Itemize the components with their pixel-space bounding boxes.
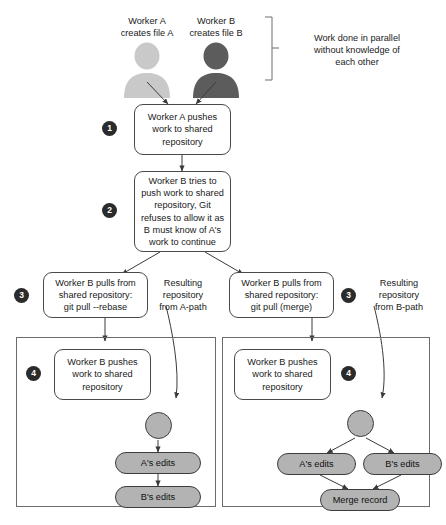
box-step4-right[interactable]: Worker B pushes work to shared repositor…: [234, 349, 331, 400]
resulting-left-line2: repository: [150, 289, 216, 301]
resulting-right-label: Resulting repository from B-path: [364, 277, 434, 314]
edge-step2-to-step3-right: [205, 252, 243, 274]
box-step1-line3: repository: [148, 136, 217, 148]
box-step3-left-line1: Worker B pulls from: [55, 277, 136, 289]
box-step4-left-line1: Worker B pushes: [67, 356, 137, 368]
box-step2-line5: B must know of A's: [141, 224, 224, 236]
box-step3-left-line2: shared repository:: [55, 289, 136, 301]
box-step2-line2: push work to shared: [141, 187, 224, 199]
box-step3-right-line3: git pull (merge): [241, 301, 322, 313]
parallel-work-note: Work done in parallel without knowledge …: [282, 32, 432, 69]
box-step2-line1: Worker B tries to: [141, 175, 224, 187]
worker-a-label-line1: Worker A: [107, 15, 187, 27]
worker-a-label: Worker A creates file A: [107, 15, 187, 39]
parallel-note-line2: without knowledge of: [282, 44, 432, 56]
box-step4-left-line2: work to shared: [67, 368, 137, 380]
box-step3-left[interactable]: Worker B pulls from shared repository: g…: [43, 272, 148, 318]
box-step1[interactable]: Worker A pushes work to shared repositor…: [134, 104, 231, 155]
box-step2-line4: refuses to allow it as: [141, 212, 224, 224]
resulting-left-line1: Resulting: [150, 277, 216, 289]
commit-b-edits-left[interactable]: B's edits: [115, 486, 201, 508]
step-badge-3-right: 3: [341, 288, 356, 303]
step-badge-4-right: 4: [341, 366, 356, 381]
parallel-work-bracket: [265, 17, 279, 80]
step-badge-1: 1: [102, 121, 117, 136]
box-step4-right-line3: repository: [247, 381, 317, 393]
box-step3-right[interactable]: Worker B pulls from shared repository: g…: [229, 272, 334, 318]
commit-a-edits-left[interactable]: A's edits: [115, 452, 201, 474]
box-step3-right-line2: shared repository:: [241, 289, 322, 301]
worker-b-label: Worker B creates file B: [176, 15, 256, 39]
resulting-right-line2: repository: [364, 289, 434, 301]
box-step4-right-line2: work to shared: [247, 368, 317, 380]
commit-a-edits-right[interactable]: A's edits: [277, 453, 356, 475]
box-step2-line6: work to continue: [141, 236, 224, 248]
box-step2[interactable]: Worker B tries to push work to shared re…: [134, 171, 231, 252]
commit-merge-record-label: Merge record: [333, 495, 388, 505]
step-badge-3-left: 3: [14, 288, 29, 303]
commit-b-edits-right[interactable]: B's edits: [363, 453, 442, 475]
worker-b-label-line1: Worker B: [176, 15, 256, 27]
box-step2-line3: repository, Git: [141, 199, 224, 211]
box-step1-line1: Worker A pushes: [148, 111, 217, 123]
commit-root-left[interactable]: [145, 412, 172, 439]
resulting-right-line3: from B-path: [364, 301, 434, 313]
commit-a-edits-left-label: A's edits: [141, 458, 175, 468]
parallel-note-line1: Work done in parallel: [282, 32, 432, 44]
diagram-canvas: Worker A creates file A Worker B creates…: [0, 0, 446, 525]
box-step3-left-line3: git pull --rebase: [55, 301, 136, 313]
step-badge-4-left: 4: [26, 366, 41, 381]
commit-root-right[interactable]: [347, 410, 374, 437]
commit-b-edits-left-label: B's edits: [141, 492, 175, 502]
box-step4-left-line3: repository: [67, 381, 137, 393]
box-step3-right-line1: Worker B pulls from: [241, 277, 322, 289]
worker-b-label-line2: creates file B: [176, 27, 256, 39]
avatar-worker-a: [124, 43, 170, 99]
box-step4-left[interactable]: Worker B pushes work to shared repositor…: [54, 349, 151, 400]
parallel-note-line3: each other: [282, 56, 432, 68]
edge-step2-to-step3-left: [122, 252, 160, 274]
resulting-left-line3: from A-path: [150, 301, 216, 313]
resulting-left-label: Resulting repository from A-path: [150, 277, 216, 314]
commit-a-edits-right-label: A's edits: [299, 459, 333, 469]
commit-merge-record[interactable]: Merge record: [320, 489, 400, 511]
avatar-worker-b: [193, 43, 239, 99]
box-step1-line2: work to shared: [148, 123, 217, 135]
resulting-right-line1: Resulting: [364, 277, 434, 289]
worker-a-label-line2: creates file A: [107, 27, 187, 39]
commit-b-edits-right-label: B's edits: [385, 459, 419, 469]
box-step4-right-line1: Worker B pushes: [247, 356, 317, 368]
step-badge-2: 2: [102, 203, 117, 218]
